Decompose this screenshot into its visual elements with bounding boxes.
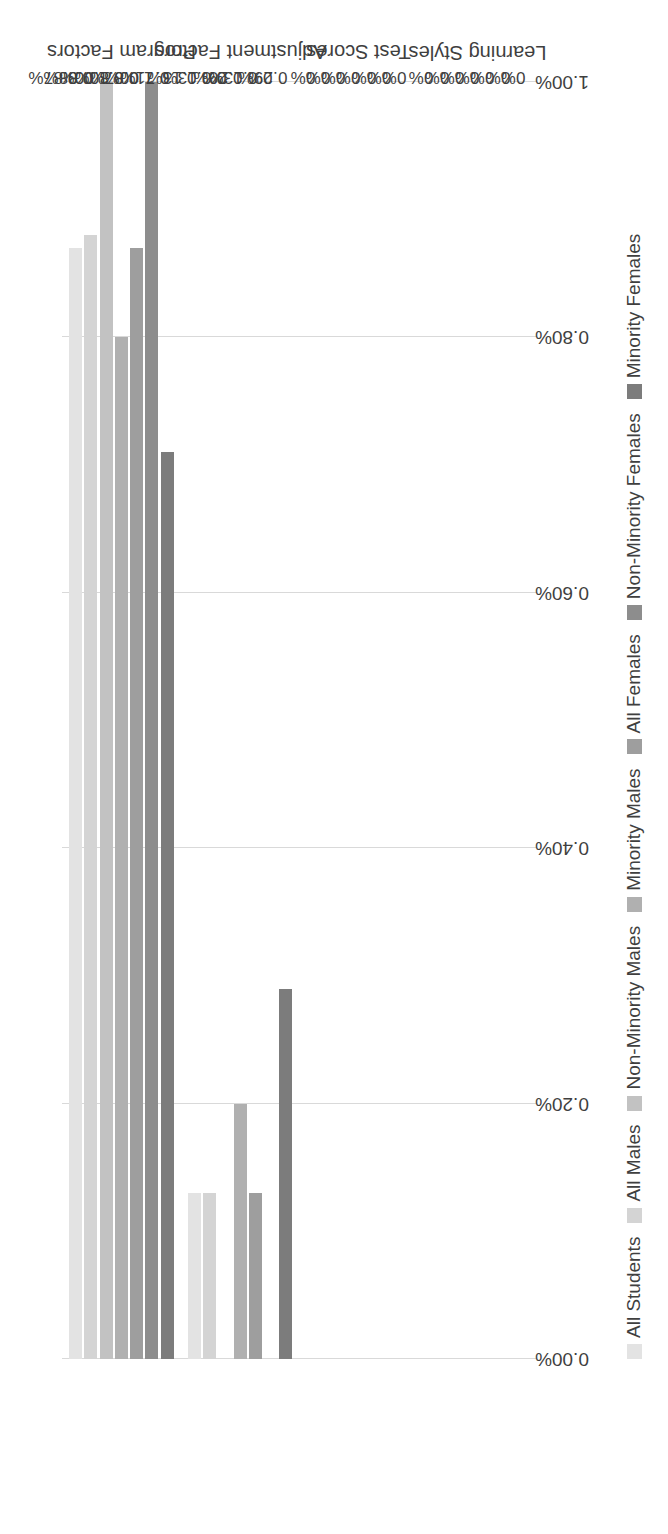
value-axis-tick: 0.20%: [535, 1093, 589, 1115]
bar-group: 0.87%0.88%1.00%0.80%0.87%1.00%0.71%: [62, 82, 181, 1359]
bar[interactable]: 0.80%: [115, 337, 128, 1359]
legend-swatch-icon: [627, 1096, 642, 1111]
legend-label: Non-Minority Females: [623, 413, 645, 599]
bar-chart: 0.87%0.88%1.00%0.80%0.87%1.00%0.71%0.13%…: [0, 0, 668, 1534]
legend-swatch-icon: [627, 739, 642, 754]
bar[interactable]: 0.13%: [188, 1193, 201, 1359]
legend-item[interactable]: All Females: [623, 634, 645, 754]
legend-label: All Males: [623, 1125, 645, 1202]
legend-label: Minority Females: [623, 234, 645, 379]
bar-row: 0%: [368, 82, 381, 1359]
legend-swatch-icon: [627, 1344, 642, 1359]
bar[interactable]: 0.87%: [69, 248, 82, 1359]
bar-row: 0.20%: [234, 82, 247, 1359]
bar-row: 0%: [307, 82, 320, 1359]
rotated-chart-canvas: 0.87%0.88%1.00%0.80%0.87%1.00%0.71%0.13%…: [0, 0, 668, 1534]
legend-swatch-icon: [627, 1208, 642, 1223]
bar-row: 0%: [218, 82, 231, 1359]
bar-row: 0%: [471, 82, 484, 1359]
bar[interactable]: 1.00%: [145, 82, 158, 1359]
value-axis-tick: 0.80%: [535, 326, 589, 348]
bar-row: 0%: [383, 82, 396, 1359]
value-axis-tick: 0.40%: [535, 837, 589, 859]
legend-label: Non-Minority Males: [623, 926, 645, 1090]
legend-item[interactable]: All Students: [623, 1237, 645, 1359]
legend-item[interactable]: All Males: [623, 1125, 645, 1223]
bar-row: 0%: [398, 82, 411, 1359]
bar-groups: 0.87%0.88%1.00%0.80%0.87%1.00%0.71%0.13%…: [62, 82, 537, 1359]
bar-group: 0%0%0%0%0%0%0%: [300, 82, 419, 1359]
value-axis-tick: 0.00%: [535, 1348, 589, 1370]
bar[interactable]: 0.13%: [249, 1193, 262, 1359]
bar-row: 0%: [337, 82, 350, 1359]
legend-item[interactable]: Non-Minority Males: [623, 926, 645, 1111]
bar-row: 0%: [352, 82, 365, 1359]
bar[interactable]: 1.00%: [100, 82, 113, 1359]
bar-row: 0.13%: [188, 82, 201, 1359]
category-axis: Program FactorsAdjustment FactorsTest Sc…: [62, 22, 537, 82]
legend-swatch-icon: [627, 384, 642, 399]
bar-row: 0.29%: [279, 82, 292, 1359]
bar-group: 0%0%0%0%0%0%0%: [418, 82, 537, 1359]
chart-legend: All StudentsAll MalesNon-Minority MalesM…: [614, 82, 654, 1359]
bar-row: 0%: [486, 82, 499, 1359]
legend-item[interactable]: Minority Males: [623, 768, 645, 911]
bar-row: 0%: [425, 82, 438, 1359]
value-axis-tick: 1.00%: [535, 71, 589, 93]
bar-row: 1.00%: [145, 82, 158, 1359]
category-axis-label: Test Scores: [300, 22, 419, 82]
bar[interactable]: 0.88%: [84, 235, 97, 1359]
bar-row: 0.13%: [203, 82, 216, 1359]
value-axis-tick: 0.60%: [535, 582, 589, 604]
bar-row: 0%: [502, 82, 515, 1359]
bar-row: 0.87%: [130, 82, 143, 1359]
legend-swatch-icon: [627, 897, 642, 912]
bar[interactable]: 0.13%: [203, 1193, 216, 1359]
legend-item[interactable]: Non-Minority Females: [623, 413, 645, 620]
bar[interactable]: 0.29%: [279, 989, 292, 1359]
legend-label: Minority Males: [623, 768, 645, 890]
category-axis-label: Learning Styles: [418, 22, 537, 82]
bar[interactable]: 0.20%: [234, 1104, 247, 1359]
bar-row: 0.87%: [69, 82, 82, 1359]
bar-row: 1.00%: [100, 82, 113, 1359]
legend-item[interactable]: Minority Females: [623, 234, 645, 400]
bar-row: 0%: [456, 82, 469, 1359]
legend-label: All Students: [623, 1237, 645, 1338]
bar-row: 0%: [264, 82, 277, 1359]
bar-row: 0.88%: [84, 82, 97, 1359]
legend-swatch-icon: [627, 605, 642, 620]
bar-row: 0.13%: [249, 82, 262, 1359]
category-axis-label: Adjustment Factors: [181, 22, 300, 82]
bar-row: 0%: [322, 82, 335, 1359]
bar-row: 0.71%: [161, 82, 174, 1359]
bar[interactable]: 0.87%: [130, 248, 143, 1359]
bar-row: 0%: [441, 82, 454, 1359]
bar[interactable]: 0.71%: [161, 452, 174, 1359]
plot-area: 0.87%0.88%1.00%0.80%0.87%1.00%0.71%0.13%…: [62, 82, 537, 1359]
bar-row: 0.80%: [115, 82, 128, 1359]
bar-group: 0.13%0.13%0%0.20%0.13%0%0.29%: [181, 82, 300, 1359]
legend-label: All Females: [623, 634, 645, 733]
bar-row: 0%: [517, 82, 530, 1359]
